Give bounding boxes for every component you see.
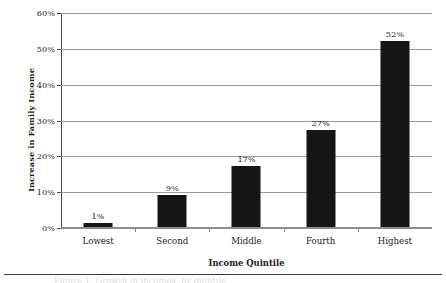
x-axis-title: Income Quintile bbox=[61, 258, 432, 268]
bar-value-label: 52% bbox=[386, 29, 404, 39]
y-tick-label: 30% bbox=[37, 116, 55, 126]
bar[interactable]: 9% bbox=[158, 195, 187, 227]
footer-divider bbox=[4, 274, 442, 275]
bar-value-label: 9% bbox=[166, 183, 179, 193]
x-tick-mark bbox=[284, 228, 285, 232]
y-tick-label: 10% bbox=[37, 187, 55, 197]
x-tick-mark bbox=[135, 228, 136, 232]
bar-slot: 1% bbox=[61, 13, 135, 227]
y-tick-label: 0% bbox=[42, 223, 55, 233]
x-tick-mark bbox=[209, 228, 210, 232]
bar-slot: 17% bbox=[209, 13, 283, 227]
bar[interactable]: 52% bbox=[380, 41, 409, 227]
x-axis-category-label: Fourth bbox=[284, 236, 358, 246]
x-axis-category-label: Highest bbox=[358, 236, 432, 246]
x-axis-category-label: Lowest bbox=[61, 236, 135, 246]
plot-area: 0%10%20%30%40%50%60% 1%9%17%27%52% bbox=[61, 13, 432, 228]
bar[interactable]: 17% bbox=[232, 166, 261, 227]
y-axis-title: Increase in Family Income bbox=[26, 45, 36, 215]
y-tick-label: 20% bbox=[37, 151, 55, 161]
y-tick-mark bbox=[57, 228, 61, 229]
x-axis-category-label: Middle bbox=[209, 236, 283, 246]
x-tick-mark bbox=[358, 228, 359, 232]
bar-value-label: 17% bbox=[237, 154, 255, 164]
y-tick-label: 50% bbox=[37, 44, 55, 54]
gridline bbox=[61, 228, 432, 229]
x-axis-category-label: Second bbox=[135, 236, 209, 246]
y-tick-label: 60% bbox=[37, 8, 55, 18]
bar[interactable]: 27% bbox=[306, 130, 335, 227]
bar[interactable]: 1% bbox=[84, 223, 113, 227]
bar-slot: 52% bbox=[358, 13, 432, 227]
bar-value-label: 27% bbox=[312, 118, 330, 128]
bar-slot: 9% bbox=[135, 13, 209, 227]
figure-caption-sliver: Figure 1. Growth in incomes, by quintile bbox=[54, 276, 384, 283]
bar-chart-figure: Increase in Family Income 0%10%20%30%40%… bbox=[0, 0, 446, 283]
bar-value-label: 1% bbox=[92, 211, 105, 221]
y-tick-label: 40% bbox=[37, 80, 55, 90]
bar-slot: 27% bbox=[284, 13, 358, 227]
